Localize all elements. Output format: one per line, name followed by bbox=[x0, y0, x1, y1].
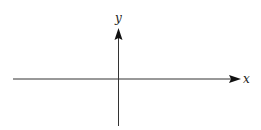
coordinate-axes-diagram: y x bbox=[0, 0, 261, 130]
x-axis-label: x bbox=[243, 72, 250, 86]
y-axis-label: y bbox=[114, 11, 122, 25]
axes-svg: y x bbox=[0, 0, 261, 130]
